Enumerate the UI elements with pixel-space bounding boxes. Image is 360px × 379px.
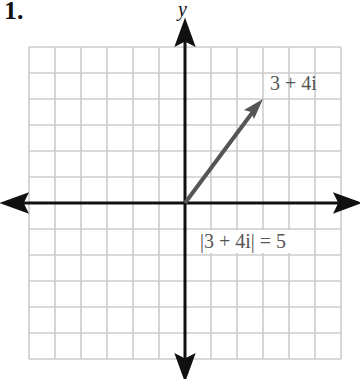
x-axis-right-arrow-icon — [336, 195, 358, 211]
complex-plane — [0, 0, 360, 379]
vector-label: 3 + 4i — [270, 72, 317, 95]
x-axis-left-arrow-icon — [4, 195, 26, 211]
y-axis-label: y — [178, 0, 187, 21]
vector-arrow-icon — [244, 99, 263, 119]
modulus-label: |3 + 4i| = 5 — [196, 230, 290, 253]
y-axis-down-arrow-icon — [177, 356, 193, 378]
problem-number: 1. — [4, 0, 24, 26]
y-axis-up-arrow-icon — [177, 22, 193, 44]
